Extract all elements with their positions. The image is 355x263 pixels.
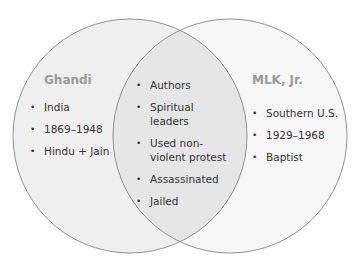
list-item: Authors (136, 78, 231, 92)
list-item: 1869–1948 (30, 122, 125, 136)
list-item: India (30, 100, 125, 114)
list-item: 1929–1968 (252, 128, 347, 142)
list-item: Assassinated (136, 172, 231, 186)
list-item: Baptist (252, 150, 347, 164)
right-title: MLK, Jr. (252, 73, 303, 87)
list-item: Spiritual leaders (136, 100, 231, 128)
list-item: Jailed (136, 194, 231, 208)
right-list: Southern U.S. 1929–1968 Baptist (252, 106, 347, 172)
list-item: Used non-violent protest (136, 136, 231, 164)
left-list: India 1869–1948 Hindu + Jain (30, 100, 125, 166)
list-item: Hindu + Jain (30, 144, 125, 158)
overlap-list: Authors Spiritual leaders Used non-viole… (136, 78, 231, 216)
list-item: Southern U.S. (252, 106, 347, 120)
left-title: Ghandi (44, 73, 92, 87)
